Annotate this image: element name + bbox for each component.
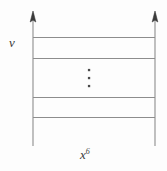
left-arrowhead-icon — [30, 11, 36, 22]
left-vertical-line — [30, 11, 36, 146]
ladder-diagram-svg — [0, 0, 167, 171]
bottom-axis-label: x6 — [80, 148, 90, 161]
vertical-ellipsis-icon — [88, 69, 90, 87]
ellipsis-dot-1 — [88, 69, 90, 71]
left-axis-label: v — [9, 36, 15, 49]
ellipsis-dot-3 — [88, 85, 90, 87]
bottom-axis-label-exponent: 6 — [86, 147, 90, 156]
right-vertical-line — [152, 11, 158, 146]
figure-container: v x6 — [0, 0, 167, 171]
ellipsis-dot-2 — [88, 77, 90, 79]
right-arrowhead-icon — [152, 11, 158, 22]
